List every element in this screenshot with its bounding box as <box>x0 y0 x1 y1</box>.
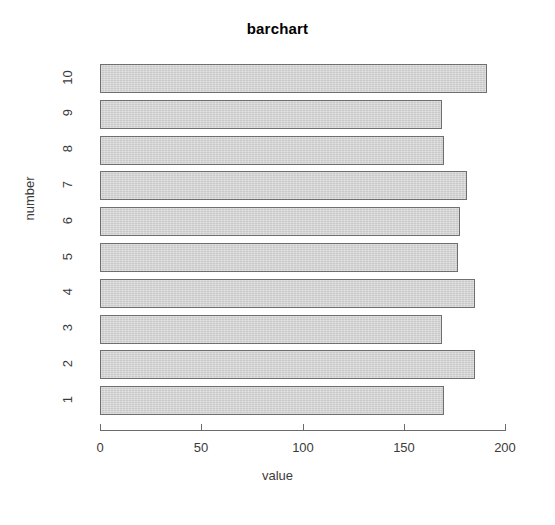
bar-row <box>100 386 505 415</box>
bar-8 <box>100 136 444 165</box>
bar-6 <box>100 207 460 236</box>
bar-row <box>100 100 505 129</box>
x-tick-100 <box>303 424 304 431</box>
x-tick-label-200: 200 <box>480 440 530 455</box>
x-tick-label-50: 50 <box>176 440 226 455</box>
plot-area <box>100 64 505 422</box>
chart-title: barchart <box>0 20 555 37</box>
bar-3 <box>100 315 442 344</box>
bar-7 <box>100 171 467 200</box>
x-tick-0 <box>100 424 101 431</box>
bar-row <box>100 207 505 236</box>
y-tick-label-8: 8 <box>60 132 75 166</box>
bar-1 <box>100 386 444 415</box>
y-tick-label-3: 3 <box>60 311 75 345</box>
bar-10 <box>100 64 487 93</box>
y-tick-label-9: 9 <box>60 96 75 130</box>
x-tick-label-0: 0 <box>75 440 125 455</box>
bar-2 <box>100 350 475 379</box>
y-tick-label-6: 6 <box>60 203 75 237</box>
bar-5 <box>100 243 458 272</box>
y-tick-label-10: 10 <box>60 60 75 94</box>
bar-row <box>100 243 505 272</box>
bar-9 <box>100 100 442 129</box>
y-tick-label-4: 4 <box>60 275 75 309</box>
bar-row <box>100 136 505 165</box>
bar-row <box>100 315 505 344</box>
bar-row <box>100 350 505 379</box>
y-tick-label-2: 2 <box>60 346 75 380</box>
y-tick-label-5: 5 <box>60 239 75 273</box>
x-axis-title: value <box>0 468 555 483</box>
bar-row <box>100 171 505 200</box>
bar-4 <box>100 279 475 308</box>
x-tick-label-150: 150 <box>379 440 429 455</box>
bar-row <box>100 64 505 93</box>
x-tick-label-100: 100 <box>278 440 328 455</box>
y-tick-label-7: 7 <box>60 167 75 201</box>
barchart-figure: barchart number value 109876543210501001… <box>0 0 555 525</box>
x-tick-50 <box>201 424 202 431</box>
y-tick-label-1: 1 <box>60 382 75 416</box>
x-tick-150 <box>404 424 405 431</box>
bar-row <box>100 279 505 308</box>
x-tick-200 <box>505 424 506 431</box>
y-axis-title: number <box>22 191 37 221</box>
